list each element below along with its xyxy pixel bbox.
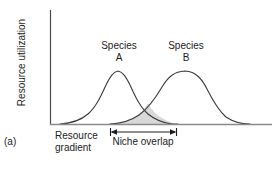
panel-label: (a)	[4, 136, 16, 147]
x-axis-label-line-1: Resource	[55, 130, 98, 142]
niche-overlap-label: Niche overlap	[103, 136, 183, 147]
species-a-curve	[60, 71, 178, 124]
y-axis-label: Resource utilization	[16, 15, 27, 111]
figure-panel: (a) Resource utilization Resource gradie…	[0, 0, 279, 170]
niche-overlap-arrow	[111, 128, 177, 136]
niche-overlap-shaded-area	[110, 103, 176, 124]
species-a-label: Species A	[96, 40, 142, 64]
x-axis-label-line-2: gradient	[55, 142, 98, 154]
species-a-label-line-2: A	[96, 52, 142, 64]
x-axis-label: Resource gradient	[55, 130, 98, 154]
species-b-label: Species B	[163, 40, 209, 64]
species-b-label-line-2: B	[163, 52, 209, 64]
species-b-curve	[110, 71, 250, 124]
species-b-label-line-1: Species	[163, 40, 209, 52]
species-a-label-line-1: Species	[96, 40, 142, 52]
